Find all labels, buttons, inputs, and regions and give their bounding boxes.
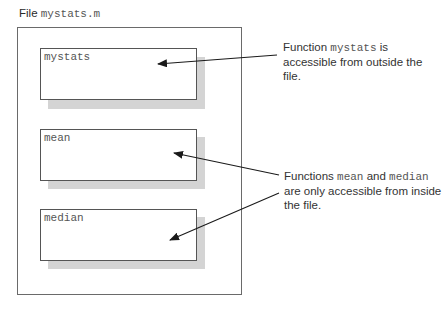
note-private-line3: the file. [284, 198, 441, 212]
arrow-public [158, 55, 277, 64]
note-private-line2: are only accessible from inside [284, 184, 441, 198]
arrow-median [170, 193, 279, 240]
note-private-and: and [367, 170, 386, 182]
note-private-code2: median [389, 171, 429, 183]
note-private-code1: mean [337, 171, 363, 183]
note-private: Functions mean and median are only acces… [284, 169, 441, 212]
note-public-line2: accessible from outside the file. [283, 55, 442, 83]
arrow-mean [174, 153, 279, 175]
note-public-code: mystats [330, 42, 376, 54]
note-private-prefix: Functions [284, 170, 334, 182]
note-public: Function mystats is accessible from outs… [283, 40, 442, 83]
note-public-suffix: is [380, 41, 388, 53]
note-public-prefix: Function [283, 41, 327, 53]
